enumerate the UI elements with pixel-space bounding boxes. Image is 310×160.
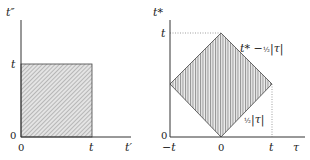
left-diagram: t″ t 0 0 t t′ [6, 6, 132, 154]
svg-text:½: ½ [263, 46, 270, 54]
right-x-tick-neg-t: −t [162, 141, 176, 154]
upper-boundary-label: t* − ½ |τ| [240, 42, 284, 56]
svg-text:t* −: t* − [240, 42, 263, 55]
right-x-tick-t: t [269, 141, 274, 154]
svg-text:½: ½ [244, 117, 251, 125]
right-x-tick-0: 0 [218, 142, 224, 153]
svg-text:|τ|: |τ| [251, 113, 265, 127]
right-y-tick-t: t [161, 27, 166, 40]
right-diagram: t* t 0 −t 0 t τ t* − ½ |τ| ½ |τ| [153, 6, 305, 154]
right-x-axis-label: τ [293, 141, 300, 154]
left-x-tick-t: t [89, 141, 94, 154]
svg-text:|τ|: |τ| [270, 42, 284, 56]
left-y-tick-t: t [11, 58, 16, 71]
right-y-tick-0: 0 [161, 130, 167, 141]
left-y-axis-label: t″ [6, 6, 15, 19]
left-y-tick-0: 0 [10, 130, 16, 141]
right-y-axis-label: t* [153, 6, 163, 19]
lower-boundary-label: ½ |τ| [244, 113, 265, 127]
figure: t″ t 0 0 t t′ t* t 0 −t 0 t τ t* − ½ |τ|… [0, 0, 310, 160]
square-region [21, 64, 92, 137]
left-x-tick-0: 0 [18, 142, 24, 153]
left-x-axis-label: t′ [125, 141, 132, 154]
